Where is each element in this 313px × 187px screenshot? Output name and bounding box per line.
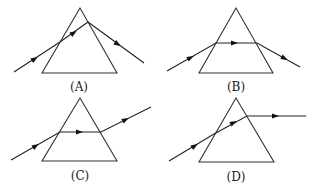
panel-label-c: (C) — [71, 170, 90, 182]
light-ray-path — [14, 22, 144, 72]
arrowhead-icon — [231, 40, 238, 45]
prism-triangle — [42, 8, 117, 73]
prism-triangle — [199, 98, 274, 162]
panel-label-a: (A) — [70, 81, 88, 93]
panel-a — [14, 8, 144, 73]
prism-diagram-figure: (A) (B) (C) (D) — [0, 0, 313, 187]
panel-d — [169, 98, 306, 162]
panel-c — [11, 98, 151, 161]
arrowhead-icon — [30, 57, 37, 63]
panel-b — [167, 8, 300, 73]
panel-label-d: (D) — [227, 171, 246, 183]
light-ray-path — [169, 116, 306, 161]
arrowhead-icon — [190, 144, 197, 150]
arrowhead-icon — [229, 121, 236, 126]
ray-direction-arrows — [31, 118, 128, 150]
arrowhead-icon — [280, 54, 287, 59]
light-ray-path — [11, 107, 151, 160]
arrowhead-icon — [76, 129, 83, 134]
diagram-canvas — [0, 0, 313, 187]
arrowhead-icon — [186, 56, 193, 61]
prism-triangle — [199, 8, 273, 73]
arrowhead-icon — [272, 113, 279, 118]
arrowhead-icon — [31, 144, 38, 150]
panel-label-b: (B) — [227, 81, 245, 93]
arrowhead-icon — [121, 118, 128, 123]
ray-direction-arrows — [190, 113, 279, 150]
arrowhead-icon — [69, 31, 76, 37]
